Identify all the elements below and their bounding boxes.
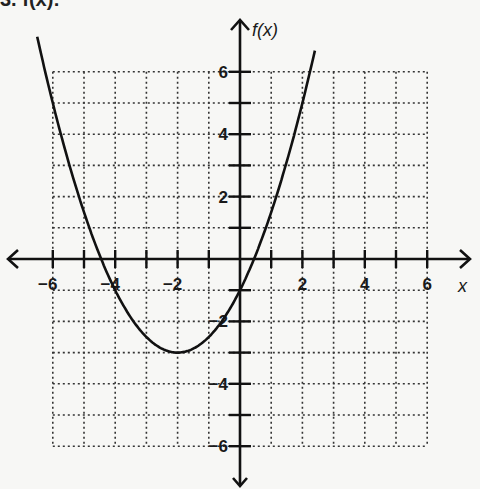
parabola-curve [37, 37, 315, 353]
y-tick-label: 2 [219, 188, 228, 207]
x-axis-label: x [457, 276, 468, 296]
x-tick-label: 6 [422, 275, 431, 294]
y-tick-label: 6 [219, 63, 228, 82]
function-graph: −6−4−2246642−2−4−6 x f(x) [0, 0, 480, 489]
x-tick-label: 2 [298, 275, 307, 294]
y-tick-label: −4 [209, 375, 229, 394]
y-tick-label: 4 [219, 125, 229, 144]
y-tick-label: −6 [209, 437, 228, 456]
x-tick-label: −2 [163, 275, 182, 294]
x-tick-label: 4 [360, 275, 370, 294]
y-axis-label: f(x) [252, 20, 278, 40]
x-tick-label: −6 [38, 275, 57, 294]
